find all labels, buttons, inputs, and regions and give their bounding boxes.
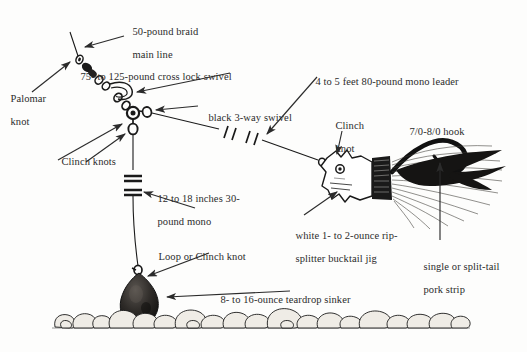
label-dropper-mono: 12 to 18 inches 30- pound mono	[152, 181, 240, 227]
label-clinch-knots: Clinch knots	[56, 144, 116, 167]
label-palomar-knot: Palomar knot	[5, 81, 46, 127]
dropper-line	[124, 134, 142, 266]
main-line	[70, 32, 78, 56]
label-clinch-knot: Clinch knot	[330, 108, 364, 154]
arrow-bucktail-jig	[304, 192, 337, 215]
label-bucktail-jig: white 1- to 2-ounce rip- splitter buckta…	[290, 218, 398, 264]
label-main-line: 50-pound braid main line	[127, 14, 198, 60]
bottom-rocks	[52, 309, 470, 328]
label-three-way-swivel: black 3-way swivel	[203, 100, 292, 123]
label-loop-or-clinch-knot: Loop or Clinch knot	[153, 239, 246, 262]
label-hook: 7/0-8/0 hook	[404, 114, 465, 137]
label-mono-leader: 4 to 5 feet 80-pound mono leader	[310, 64, 459, 87]
diagram-canvas: 50-pound braid main line Palomar knot 75…	[0, 0, 527, 352]
label-pork-strip: single or split-tail pork strip	[418, 249, 500, 295]
arrow-main-line	[85, 36, 124, 47]
loop-or-clinch-knot	[132, 265, 142, 274]
bucktail-jig	[321, 150, 392, 202]
three-way-swivel	[120, 100, 152, 135]
label-cross-lock-swivel: 75- to 125-pound cross lock swivel	[75, 59, 232, 82]
label-sinker: 8- to 16-ounce teardrop sinker	[215, 282, 351, 305]
pork-strip	[396, 150, 506, 190]
arrow-three-way-swivel	[156, 106, 198, 110]
